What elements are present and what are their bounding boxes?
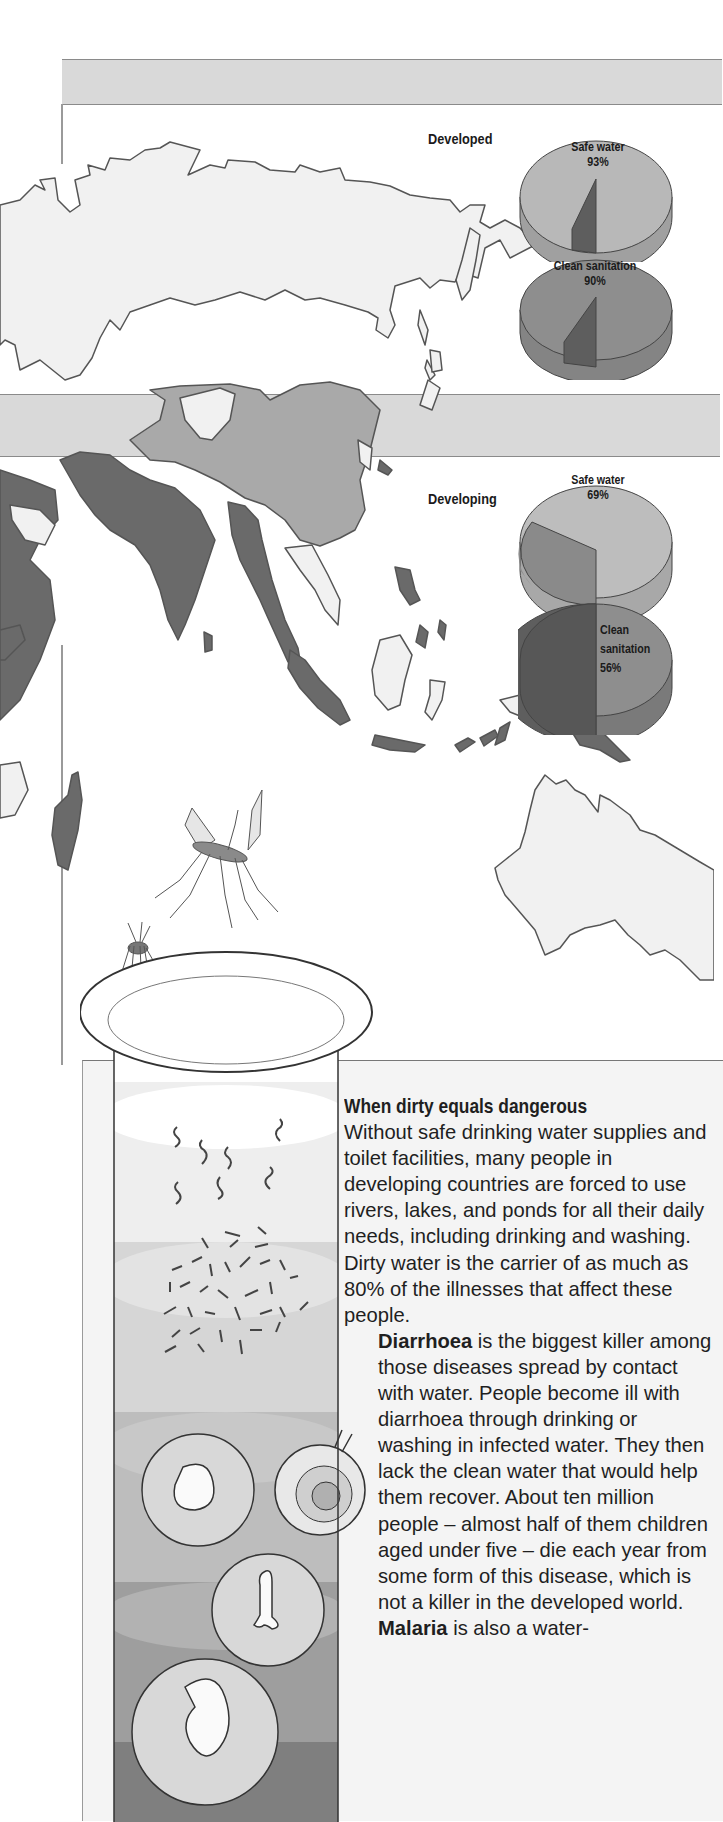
article-paragraph-3: Malaria is also a water- <box>344 1615 714 1641</box>
water-sample-tube-illustration <box>80 942 380 1822</box>
article-paragraph-1: Without safe drinking water supplies and… <box>344 1119 714 1328</box>
developing-label: Developing <box>428 490 497 507</box>
india-landmass <box>60 452 215 640</box>
article-paragraph-2: Diarrhoea is the biggest killer among th… <box>344 1328 714 1615</box>
article-heading: When dirty equals dangerous <box>344 1093 662 1119</box>
developed-safe-water-label: Safe water 93% <box>557 139 639 169</box>
developing-safe-water-label: Safe water 69% <box>557 472 639 502</box>
article-text: When dirty equals dangerous Without safe… <box>344 1093 714 1641</box>
keyword-diarrhoea: Diarrhoea <box>378 1330 472 1352</box>
madagascar-landmass <box>52 772 82 870</box>
developed-clean-sanitation-label: Clean sanitation 90% <box>542 258 649 288</box>
developed-label: Developed <box>428 130 492 147</box>
keyword-malaria: Malaria <box>378 1617 448 1639</box>
mosquito-flying-icon <box>140 780 290 930</box>
russia-landmass <box>0 142 535 380</box>
australia-landmass <box>495 775 714 980</box>
developing-clean-sanitation-label: Clean sanitation 56% <box>600 620 666 677</box>
